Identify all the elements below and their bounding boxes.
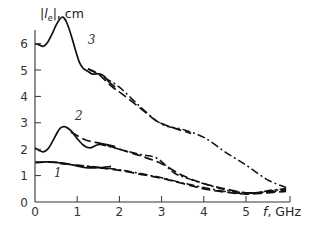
series-line-1 [88,69,191,134]
curve-label-1: 1 [54,166,62,180]
series-line-0 [35,17,115,87]
curve-label-2: 2 [74,109,83,123]
curve-label-3: 3 [88,33,96,47]
series-line-3 [35,127,115,152]
x-axis-label: f, GHz [263,204,301,219]
x-tick-label: 4 [200,205,208,219]
x-tick-label: 2 [116,205,124,219]
y-tick-label: 1 [20,169,28,183]
y-axis-label: |le|, cm [40,6,84,23]
axes [35,30,290,202]
y-tick-label: 6 [20,37,28,51]
y-tick-label: 3 [20,116,28,130]
line-chart: 0123450123456 |le|, cm f, GHz 123 [0,0,316,228]
y-tick-label: 4 [20,90,28,104]
y-tick-label: 0 [20,196,28,210]
y-tick-label: 2 [20,143,28,157]
x-tick-label: 1 [73,205,81,219]
series-layer [35,17,286,194]
y-tick-label: 5 [20,64,28,78]
series-line-4 [71,132,286,193]
x-tick-label: 0 [31,205,39,219]
curve-labels: 123 [54,33,96,180]
x-tick-label: 5 [242,205,250,219]
x-tick-label: 3 [158,205,166,219]
